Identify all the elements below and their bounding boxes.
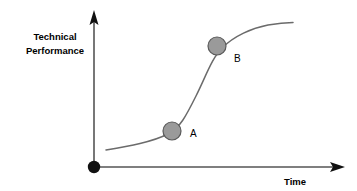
s-curve-diagram: A B Technical Performance Time xyxy=(0,0,357,191)
diagram-canvas: A B Technical Performance Time xyxy=(0,0,357,191)
point-marker-a[interactable] xyxy=(163,122,181,140)
y-axis-label-line1: Technical xyxy=(33,31,76,42)
s-curve-path xyxy=(106,23,293,150)
point-label-b: B xyxy=(234,53,241,64)
point-marker-b[interactable] xyxy=(208,37,226,55)
point-label-a: A xyxy=(190,128,197,139)
x-axis-label: Time xyxy=(284,176,306,187)
y-axis-label-line2: Performance xyxy=(26,45,84,56)
origin-dot xyxy=(88,161,100,173)
